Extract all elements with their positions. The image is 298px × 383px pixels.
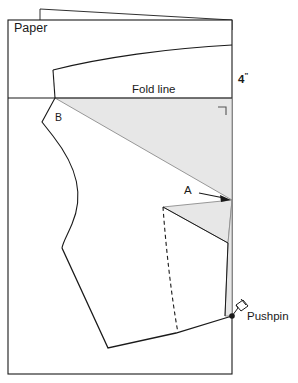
diagram-canvas: Paper Fold line 4" A B Pushpin <box>0 0 298 383</box>
pattern-fold-diagram <box>0 0 298 383</box>
fold-line-label: Fold line <box>132 84 175 96</box>
inch-mark: " <box>244 71 248 80</box>
paper-label: Paper <box>14 22 47 35</box>
point-a-label: A <box>184 185 192 197</box>
paper-sheet <box>8 20 232 374</box>
pushpin-icon <box>232 299 248 316</box>
measurement-label: 4" <box>238 72 249 85</box>
pushpin-label: Pushpin <box>247 311 289 323</box>
point-b-label: B <box>55 112 62 123</box>
